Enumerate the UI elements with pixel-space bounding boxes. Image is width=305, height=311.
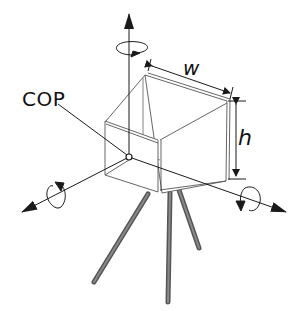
- tripod: [94, 190, 199, 302]
- horizontal-axis: [22, 157, 129, 212]
- camera-diagram: COP w h: [0, 0, 305, 311]
- tripod-leg-left-inner: [94, 194, 148, 282]
- width-label: w: [183, 58, 199, 78]
- cop-point: [126, 154, 132, 160]
- camera-box: [105, 73, 230, 193]
- cop-label: COP: [22, 89, 65, 109]
- height-label: h: [238, 127, 252, 149]
- tripod-leg-right-inner: [179, 190, 199, 248]
- rotation-arrow-yaw-icon: [116, 42, 147, 57]
